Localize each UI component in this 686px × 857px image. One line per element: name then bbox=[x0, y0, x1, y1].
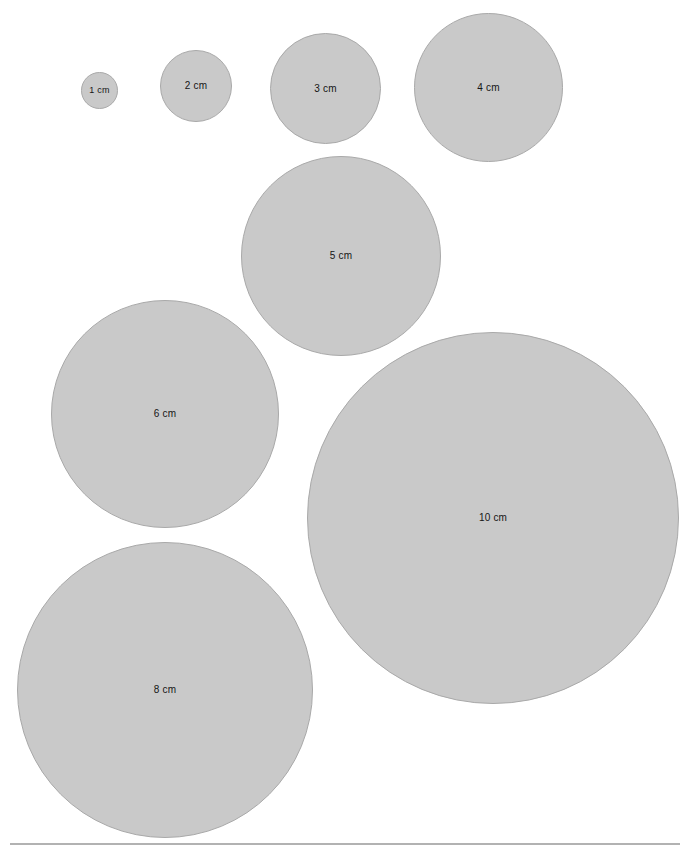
circle-label-5cm: 5 cm bbox=[330, 251, 352, 261]
circle-label-2cm: 2 cm bbox=[185, 81, 207, 91]
circle-4cm: 4 cm bbox=[414, 13, 563, 162]
circle-6cm: 6 cm bbox=[51, 300, 279, 528]
circle-label-8cm: 8 cm bbox=[154, 685, 176, 695]
circle-label-10cm: 10 cm bbox=[479, 513, 507, 523]
circle-5cm: 5 cm bbox=[241, 156, 441, 356]
circle-1cm: 1 cm bbox=[81, 72, 118, 109]
circle-8cm: 8 cm bbox=[17, 542, 313, 838]
baseline-rule bbox=[10, 843, 680, 845]
circle-label-6cm: 6 cm bbox=[154, 409, 176, 419]
circle-10cm: 10 cm bbox=[307, 332, 679, 704]
circle-3cm: 3 cm bbox=[270, 33, 381, 144]
circle-label-1cm: 1 cm bbox=[89, 86, 109, 95]
circle-label-3cm: 3 cm bbox=[314, 84, 336, 94]
circle-2cm: 2 cm bbox=[160, 50, 232, 122]
circle-chart-canvas: 1 cm2 cm3 cm4 cm5 cm6 cm8 cm10 cm bbox=[0, 0, 686, 857]
circle-label-4cm: 4 cm bbox=[477, 83, 499, 93]
